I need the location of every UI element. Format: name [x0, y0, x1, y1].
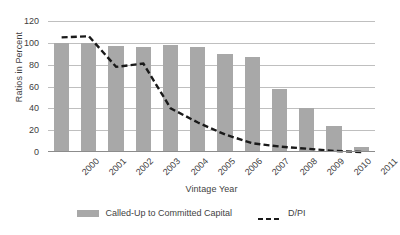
x-axis-tick-label: 2009 — [325, 156, 346, 177]
y-axis-tick-label: 80 — [29, 60, 39, 70]
x-axis-tick-label: 2006 — [243, 156, 264, 177]
y-axis-tick-label: 100 — [24, 38, 39, 48]
x-axis-tick-label: 2005 — [216, 156, 237, 177]
dashed-line-swatch-icon — [258, 209, 282, 217]
y-axis-tick-label: 0 — [34, 147, 39, 157]
y-axis-tick-label: 120 — [24, 16, 39, 26]
legend-item-dpi[interactable]: D/PI — [258, 208, 306, 218]
legend-label: D/PI — [288, 208, 306, 218]
y-axis-tick-labels: 020406080100120 — [0, 21, 44, 152]
x-axis-tick-label: 2003 — [161, 156, 182, 177]
x-axis-tick-labels: 2000200120022003200420052006200720082009… — [48, 152, 375, 184]
legend-label: Called-Up to Committed Capital — [105, 208, 232, 218]
bar-swatch-icon — [77, 210, 99, 217]
x-axis-tick-label: 2000 — [79, 156, 100, 177]
x-axis-tick-label: 2004 — [188, 156, 209, 177]
x-axis-tick-label: 2010 — [352, 156, 373, 177]
x-axis-tick-label: 2002 — [134, 156, 155, 177]
x-axis-title: Vintage Year — [48, 184, 375, 194]
y-axis-tick-label: 20 — [29, 125, 39, 135]
legend-item-called-up-to-committed-capital[interactable]: Called-Up to Committed Capital — [77, 208, 232, 218]
plot-area — [48, 21, 375, 152]
chart-legend: Called-Up to Committed Capital D/PI — [0, 208, 383, 218]
dpi-line-path — [62, 36, 362, 152]
y-axis-tick-label: 60 — [29, 82, 39, 92]
x-axis-tick-label: 2007 — [270, 156, 291, 177]
line-series-dpi — [48, 21, 375, 152]
x-axis-tick-label: 2011 — [379, 156, 400, 177]
x-axis-tick-label: 2008 — [297, 156, 318, 177]
x-axis-tick-label: 2001 — [107, 156, 128, 177]
y-axis-tick-label: 40 — [29, 103, 39, 113]
